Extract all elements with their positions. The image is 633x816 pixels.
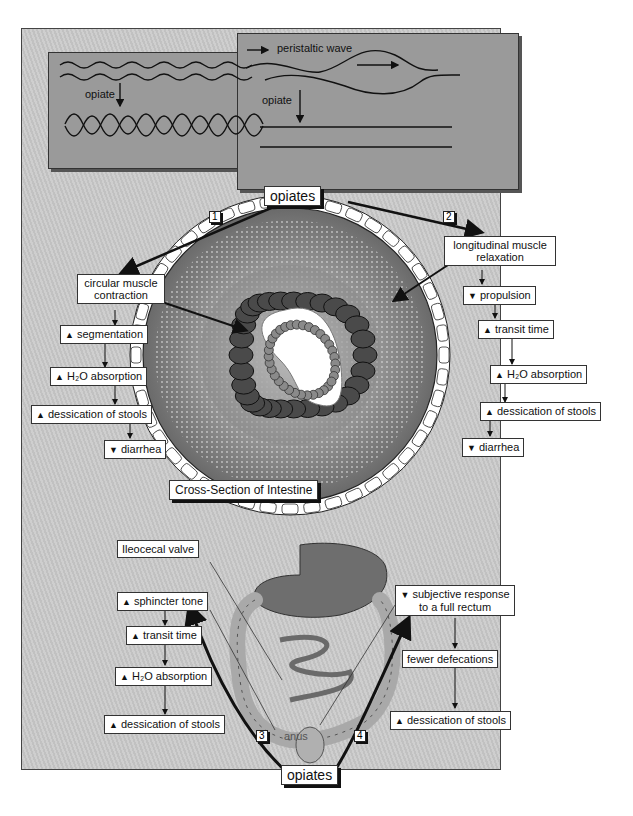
- longitudinal-muscle-inset: [237, 33, 519, 190]
- up-arrow-icon: ▲: [131, 631, 140, 641]
- up-arrow-icon: ▲: [485, 407, 494, 417]
- serosa-tile: [436, 368, 448, 385]
- circular-muscle-cell: [353, 346, 377, 364]
- down-arrow-icon: ▼: [109, 445, 118, 455]
- serosa-tile: [259, 501, 276, 513]
- pathway-number-1: 1: [209, 211, 221, 223]
- p2-step-transit-time: ▲ transit time: [478, 320, 554, 339]
- p1-step-diarrhea: ▼ diarrhea: [104, 440, 166, 459]
- p2-step-text: H₂O absorption: [507, 368, 582, 380]
- serosa-tile: [303, 501, 320, 513]
- p2-step-text: propulsion: [480, 289, 531, 301]
- p3-step-text: transit time: [143, 629, 197, 641]
- serosa-tile: [131, 347, 141, 363]
- p1-step-text: segmentation: [77, 328, 143, 340]
- p4-step-dessication: ▲ dessication of stools: [390, 711, 511, 730]
- intestine-cross-section: [130, 195, 450, 515]
- p3-step-text: dessication of stools: [121, 718, 220, 730]
- up-arrow-icon: ▲: [120, 672, 129, 682]
- down-arrow-icon: ▼: [400, 590, 409, 600]
- inset2-wave-label: peristaltic wave: [277, 42, 352, 54]
- up-arrow-icon: ▲: [483, 325, 492, 335]
- p1-step-dessication: ▲ dessication of stools: [31, 405, 152, 424]
- p2-step-diarrhea: ▼ diarrhea: [462, 438, 524, 457]
- up-arrow-icon: ▲: [36, 410, 45, 420]
- pathway-number-2: 2: [443, 211, 455, 223]
- p1-step-h2o-absorption: ▲ H₂O absorption: [50, 367, 147, 386]
- serosa-tile: [436, 324, 448, 341]
- mucosa-cell: [327, 377, 336, 386]
- up-arrow-icon: ▲: [55, 372, 64, 382]
- inset1-opiate-label: opiate: [85, 88, 115, 100]
- p2-step-h2o-absorption: ▲ H₂O absorption: [490, 365, 587, 384]
- p3-step-text: H₂O absorption: [132, 670, 207, 682]
- down-arrow-icon: ▼: [467, 443, 476, 453]
- p2-step-text: dessication of stools: [497, 405, 596, 417]
- p4-step-fewer-defecations: fewer defecations: [402, 650, 498, 668]
- p1-step-text: diarrhea: [121, 443, 161, 455]
- p2-step-propulsion: ▼ propulsion: [463, 286, 536, 305]
- longitudinal-muscle-relaxation-box: longitudinal muscle relaxation: [444, 236, 556, 266]
- opiates-bottom-box: opiates: [281, 765, 338, 785]
- circular-muscle-cell: [229, 346, 253, 364]
- p4-step-text: dessication of stools: [407, 714, 506, 726]
- p1-head-line2: contraction: [82, 289, 160, 301]
- cross-section-label: Cross-Section of Intestine: [169, 480, 318, 500]
- p2-step-dessication: ▲ dessication of stools: [480, 402, 601, 421]
- circular-muscle-cell: [230, 362, 254, 380]
- p1-head-line1: circular muscle: [82, 277, 160, 289]
- p3-step-transit-time: ▲ transit time: [126, 626, 202, 645]
- up-arrow-icon: ▲: [122, 597, 131, 607]
- p2-step-text: transit time: [495, 323, 549, 335]
- p3-step-dessication: ▲ dessication of stools: [104, 715, 225, 734]
- p2-step-text: diarrhea: [479, 441, 519, 453]
- serosa-tile: [439, 347, 449, 363]
- p4-step-text: fewer defecations: [407, 653, 493, 665]
- p4-head-line2: to a full rectum: [400, 601, 510, 613]
- p1-step-text: H₂O absorption: [67, 370, 142, 382]
- down-arrow-icon: ▼: [468, 291, 477, 301]
- inset2-opiate-label: opiate: [262, 94, 292, 106]
- p3-step-h2o-absorption: ▲ H₂O absorption: [115, 667, 212, 686]
- serosa-tile: [282, 504, 298, 514]
- up-arrow-icon: ▲: [395, 716, 404, 726]
- anus-label: anus: [284, 730, 308, 742]
- up-arrow-icon: ▲: [109, 720, 118, 730]
- p2-head-line2: relaxation: [449, 251, 551, 263]
- ileocecal-valve-label: Ileocecal valve: [117, 540, 199, 558]
- pathway-number-4: 4: [354, 730, 366, 742]
- pathway-number-3: 3: [256, 730, 268, 742]
- p3-step-sphincter-tone: ▲ sphincter tone: [117, 592, 208, 611]
- opiates-top-box: opiates: [264, 186, 321, 206]
- p2-head-line1: longitudinal muscle: [449, 239, 551, 251]
- p4-head-line1: subjective response: [412, 588, 509, 600]
- p3-step-text: sphincter tone: [134, 595, 203, 607]
- p1-step-text: dessication of stools: [48, 408, 147, 420]
- circular-muscle-contraction-box: circular muscle contraction: [77, 274, 165, 304]
- circular-muscle-cell: [351, 330, 375, 348]
- up-arrow-icon: ▲: [495, 370, 504, 380]
- up-arrow-icon: ▲: [65, 330, 74, 340]
- p1-step-segmentation: ▲ segmentation: [60, 325, 148, 344]
- subjective-response-box: ▼ subjective response to a full rectum: [395, 585, 515, 616]
